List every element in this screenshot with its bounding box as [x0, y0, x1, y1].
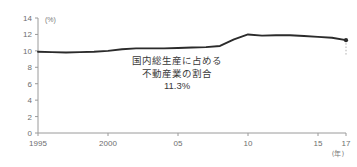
annotation-value: 11.3% [0, 80, 354, 93]
x-tick-label: 05 [174, 139, 183, 148]
annotation-line-1: 国内総生産に占める [0, 55, 354, 68]
y-tick-label: 2 [28, 113, 33, 122]
annotation-line-2: 不動産業の割合 [0, 68, 354, 81]
y-tick-label: 14 [23, 14, 32, 23]
y-axis-unit-label: (%) [45, 16, 56, 24]
x-tick-label: 10 [244, 139, 253, 148]
y-tick-label: 4 [28, 96, 33, 105]
x-axis-unit-label: (年) [332, 149, 345, 158]
x-tick-label: 1995 [29, 139, 47, 148]
x-tick-label: 2000 [99, 139, 117, 148]
y-tick-label: 0 [28, 129, 33, 138]
y-tick-label: 12 [23, 30, 32, 39]
end-point-marker [344, 38, 348, 42]
line-chart: 02468101214 1995200005101517 (%) (年) 国内総… [0, 0, 357, 167]
data-series-line [38, 34, 346, 52]
x-tick-label: 17 [342, 139, 351, 148]
x-axis-ticks: 1995200005101517 [29, 133, 351, 148]
x-tick-label: 15 [314, 139, 323, 148]
chart-annotation: 国内総生産に占める 不動産業の割合 11.3% [0, 55, 354, 93]
